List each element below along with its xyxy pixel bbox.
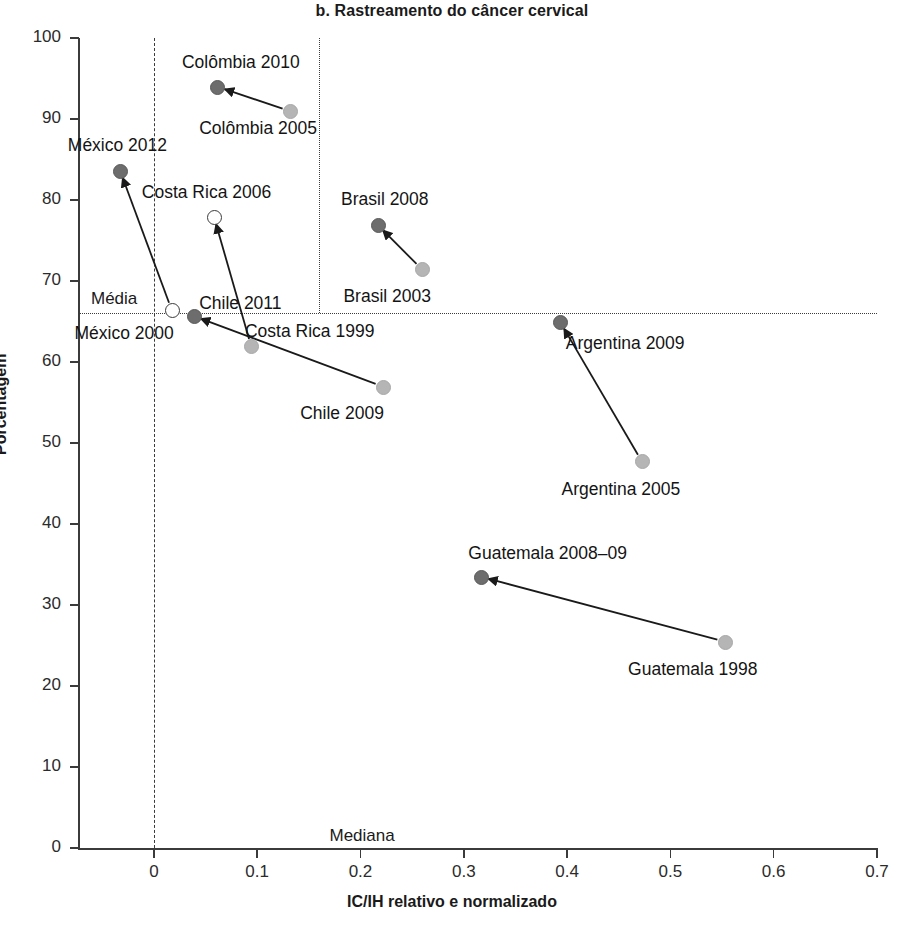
y-tick-label: 20 — [1, 675, 61, 695]
y-tick — [70, 523, 79, 525]
data-point-label: México 2012 — [68, 135, 167, 156]
data-point-label: Argentina 2005 — [561, 479, 680, 500]
y-tick-label: 30 — [1, 594, 61, 614]
data-point-label: Chile 2009 — [300, 403, 384, 424]
data-point-label: Brasil 2003 — [343, 286, 431, 307]
x-tick-label: 0.6 — [744, 862, 804, 882]
y-tick — [70, 685, 79, 687]
y-tick — [70, 847, 79, 849]
x-tick-label: 0.1 — [227, 862, 287, 882]
data-point-label: Guatemala 2008–09 — [468, 543, 627, 564]
y-tick-label: 90 — [1, 108, 61, 128]
x-tick-label: 0.3 — [434, 862, 494, 882]
x-axis-title: IC/IH relativo e normalizado — [0, 893, 904, 911]
x-tick-label: 0.2 — [330, 862, 390, 882]
x-tick-label: 0.4 — [537, 862, 597, 882]
y-tick — [70, 442, 79, 444]
data-point-label: Argentina 2009 — [566, 333, 685, 354]
x-tick — [566, 848, 568, 858]
data-point-label: Costa Rica 2006 — [142, 182, 271, 203]
y-tick — [70, 766, 79, 768]
data-point-marker — [376, 380, 391, 395]
y-tick-label: 50 — [1, 432, 61, 452]
y-tick-label: 100 — [1, 27, 61, 47]
data-point-label: México 2000 — [74, 323, 173, 344]
data-point-label: Colômbia 2010 — [182, 52, 300, 73]
x-tick-label: 0.7 — [847, 862, 904, 882]
chart-title: b. Rastreamento do câncer cervical — [0, 2, 904, 20]
y-tick — [70, 37, 79, 39]
y-tick — [70, 118, 79, 120]
x-tick — [463, 848, 465, 858]
data-point-marker — [371, 218, 386, 233]
y-tick-label: 70 — [1, 270, 61, 290]
x-tick-label: 0 — [124, 862, 184, 882]
chart-figure: b. Rastreamento do câncer cervical 01020… — [0, 0, 904, 931]
x-tick — [360, 848, 362, 858]
y-tick-label: 10 — [1, 756, 61, 776]
trend-arrows — [79, 38, 877, 849]
y-tick — [70, 361, 79, 363]
x-tick — [670, 848, 672, 858]
y-tick — [70, 280, 79, 282]
trend-arrow — [383, 230, 417, 264]
data-point-marker — [718, 635, 733, 650]
y-tick-label: 60 — [1, 351, 61, 371]
y-tick — [70, 199, 79, 201]
data-point-marker — [165, 303, 180, 318]
x-tick — [773, 848, 775, 858]
data-point-marker — [113, 164, 128, 179]
data-point-marker — [474, 570, 489, 585]
y-axis-title: Porcentagem — [0, 354, 10, 455]
data-point-label: Colômbia 2005 — [199, 118, 317, 139]
x-tick — [153, 848, 155, 858]
data-point-label: Costa Rica 1999 — [245, 321, 374, 342]
data-point-label: Guatemala 1998 — [628, 659, 757, 680]
y-tick-label: 0 — [1, 837, 61, 857]
y-tick-label: 80 — [1, 189, 61, 209]
trend-arrow — [488, 579, 717, 640]
x-tick-label: 0.5 — [640, 862, 700, 882]
data-point-label: Chile 2011 — [199, 293, 281, 314]
data-point-label: Brasil 2008 — [341, 189, 429, 210]
plot-area: 0102030405060708090100 00.10.20.30.40.50… — [79, 38, 877, 848]
data-point-marker — [207, 210, 222, 225]
y-tick — [70, 604, 79, 606]
x-tick — [876, 848, 878, 858]
trend-arrow — [224, 89, 282, 109]
x-tick — [256, 848, 258, 858]
y-tick-label: 40 — [1, 513, 61, 533]
